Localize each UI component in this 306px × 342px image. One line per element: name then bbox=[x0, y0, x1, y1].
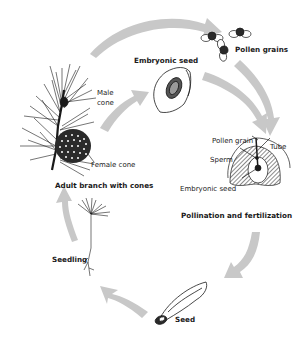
stage-label-seed: Seed bbox=[175, 316, 195, 323]
arrow-seed-to-seedling bbox=[100, 286, 148, 318]
stage-label-embryonic-seed: Embryonic seed bbox=[134, 57, 198, 64]
stage-label-seedling: Seedling bbox=[52, 256, 87, 263]
female-cone-illustration bbox=[55, 129, 91, 163]
stage-label-adult: Adult branch with cones bbox=[55, 182, 153, 189]
embryonic-seed-illustration bbox=[154, 68, 191, 113]
arrow-seedling-to-adult bbox=[56, 186, 78, 242]
female-cone-label: Female cone bbox=[91, 162, 135, 169]
embryonic-seed-callout: Embryonic seed bbox=[180, 186, 236, 193]
arrow-pollination-to-seed bbox=[224, 232, 260, 278]
stage-label-pollination: Pollination and fertilization bbox=[181, 212, 292, 219]
pollen-grain-callout: Pollen grain bbox=[212, 138, 253, 145]
tube-callout: Tube bbox=[270, 144, 286, 151]
stage-label-pollen-grains: Pollen grains bbox=[235, 46, 288, 53]
pine-life-cycle-diagram: Male cone Female cone Adult branch with … bbox=[0, 0, 306, 342]
male-cone-label-line1: Male bbox=[97, 90, 114, 97]
seedling-illustration bbox=[78, 198, 110, 276]
sperm-callout: Sperm bbox=[210, 157, 233, 164]
male-cone-label-line2: cone bbox=[97, 100, 114, 107]
